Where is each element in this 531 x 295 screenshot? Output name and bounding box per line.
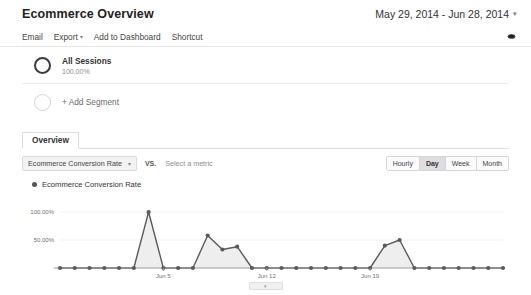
page-header: Ecommerce Overview May 29, 2014 - Jun 28…	[0, 0, 531, 27]
svg-text:50.00%: 50.00%	[34, 237, 55, 243]
chart-legend: Ecommerce Conversion Rate	[22, 178, 509, 190]
toolbar-item-email[interactable]: Email	[22, 32, 43, 42]
svg-text:Jun 19: Jun 19	[361, 273, 380, 278]
chevron-down-icon: ▾	[80, 33, 83, 40]
legend-marker-icon	[32, 182, 37, 187]
chevron-down-icon: ▾	[128, 160, 131, 167]
compare-metric-selector[interactable]: Select a metric	[165, 159, 213, 168]
toolbar-item-export-label: Export	[54, 32, 78, 42]
metric-selector-label: Ecommerce Conversion Rate	[28, 159, 122, 168]
segment-percent: 100.00%	[62, 67, 111, 76]
page-title: Ecommerce Overview	[22, 7, 154, 21]
granularity-button-group: Hourly Day Week Month	[386, 156, 509, 171]
tab-overview[interactable]: Overview	[22, 132, 79, 149]
analytics-page: Ecommerce Overview May 29, 2014 - Jun 28…	[0, 0, 531, 295]
date-range-selector[interactable]: May 29, 2014 - Jun 28, 2014 ▾	[375, 8, 517, 20]
vs-label: VS.	[145, 160, 156, 167]
segment-name: All Sessions	[62, 56, 111, 66]
metric-controls-row: Ecommerce Conversion Rate ▾ VS. Select a…	[22, 155, 509, 171]
action-toolbar: Email Export ▾ Add to Dashboard Shortcut	[0, 27, 531, 47]
toolbar-item-add-to-dashboard-label: Add to Dashboard	[94, 32, 161, 42]
segments-panel: All Sessions 100.00% + Add Segment	[22, 48, 509, 124]
segment-all-sessions[interactable]: All Sessions 100.00%	[22, 48, 509, 84]
ecommerce-conversion-rate-chart[interactable]: 50.00%100.00%Jun 5Jun 12Jun 19	[22, 190, 509, 278]
chart-legend-label: Ecommerce Conversion Rate	[42, 180, 141, 189]
svg-text:100.00%: 100.00%	[30, 209, 54, 215]
toolbar-item-export[interactable]: Export ▾	[54, 32, 83, 42]
toolbar-items: Email Export ▾ Add to Dashboard Shortcut	[22, 32, 203, 42]
add-segment-label: + Add Segment	[62, 97, 119, 107]
chevron-down-icon: ▾	[513, 10, 517, 17]
svg-text:Jun 12: Jun 12	[258, 273, 277, 278]
tab-overview-label: Overview	[32, 135, 69, 145]
segment-texts: All Sessions 100.00%	[62, 56, 111, 76]
panel-collapse-handle[interactable]: ▾	[249, 282, 283, 290]
toolbar-item-email-label: Email	[22, 32, 43, 42]
chevron-down-icon: ▾	[264, 284, 267, 289]
date-range-label: May 29, 2014 - Jun 28, 2014	[375, 8, 509, 20]
granularity-month[interactable]: Month	[477, 157, 508, 170]
add-segment-button[interactable]: + Add Segment	[22, 84, 509, 120]
toolbar-item-shortcut-label: Shortcut	[172, 32, 203, 42]
toolbar-item-add-to-dashboard[interactable]: Add to Dashboard	[94, 32, 161, 42]
segment-ring-icon	[34, 57, 51, 74]
segment-ring-empty-icon	[34, 94, 51, 111]
share-icon[interactable]	[506, 32, 517, 41]
granularity-week[interactable]: Week	[446, 157, 477, 170]
chart-block: Ecommerce Conversion Rate 50.00%100.00%J…	[22, 178, 509, 278]
report-tabstrip: Overview	[22, 132, 509, 149]
toolbar-item-shortcut[interactable]: Shortcut	[172, 32, 203, 42]
metric-selector-dropdown[interactable]: Ecommerce Conversion Rate ▾	[22, 156, 137, 171]
granularity-hourly[interactable]: Hourly	[387, 157, 420, 170]
granularity-day[interactable]: Day	[420, 157, 446, 170]
svg-text:Jun 5: Jun 5	[156, 273, 171, 278]
